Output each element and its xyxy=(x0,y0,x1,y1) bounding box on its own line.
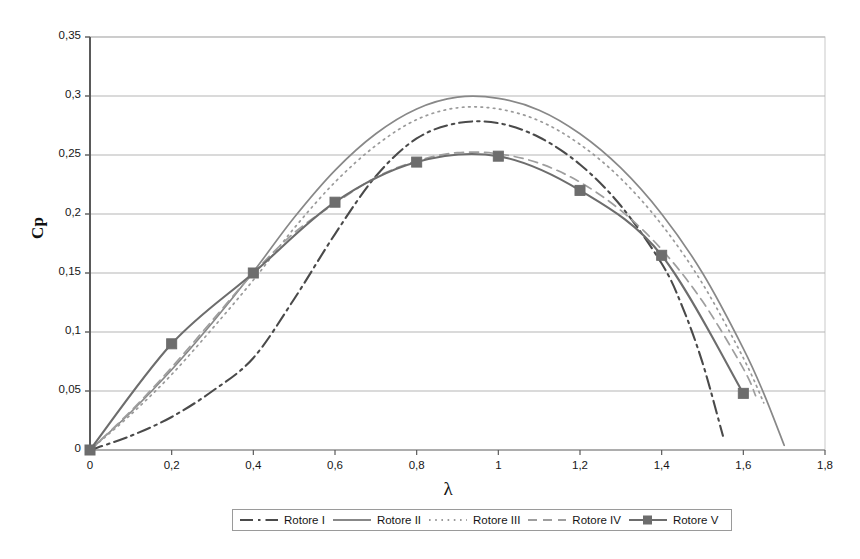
chart-figure: 00,050,10,150,20,250,30,3500,20,40,60,81… xyxy=(0,0,860,559)
legend-line-swatch xyxy=(527,514,567,526)
legend-item-3[interactable]: Rotore III xyxy=(428,510,527,530)
y-tick-label: 0,05 xyxy=(59,383,81,395)
series-marker-square xyxy=(248,268,258,278)
x-tick-label: 0,8 xyxy=(397,459,437,471)
series-marker-square xyxy=(738,388,748,398)
x-tick-label: 0,2 xyxy=(152,459,192,471)
legend-label: Rotore II xyxy=(377,514,421,526)
x-tick-label: 0 xyxy=(70,459,110,471)
x-tick-label: 1,8 xyxy=(805,459,845,471)
legend-line-swatch xyxy=(239,514,279,526)
series-marker-square xyxy=(85,445,95,455)
series-marker-square xyxy=(412,157,422,167)
plot-frame xyxy=(90,37,825,450)
legend-item-1[interactable]: Rotore I xyxy=(239,510,332,530)
x-tick-label: 0,4 xyxy=(233,459,273,471)
series-marker-square xyxy=(493,151,503,161)
x-tick-label: 0,6 xyxy=(315,459,355,471)
legend-label: Rotore IV xyxy=(572,514,621,526)
y-tick-label: 0,25 xyxy=(59,147,81,159)
y-tick-label: 0,2 xyxy=(65,206,81,218)
plot-canvas xyxy=(0,0,860,559)
x-tick-label: 1,4 xyxy=(642,459,682,471)
y-tick-label: 0,35 xyxy=(59,29,81,41)
series-marker-square xyxy=(167,339,177,349)
chart-legend: Rotore IRotore IIRotore IIIRotore IVRoto… xyxy=(232,509,732,531)
series-marker-square xyxy=(575,185,585,195)
y-axis-title: Cp xyxy=(28,214,48,242)
x-tick-label: 1,2 xyxy=(560,459,600,471)
series-line-1 xyxy=(90,121,723,450)
series-marker-square xyxy=(330,197,340,207)
legend-line-swatch xyxy=(332,514,372,526)
series-line-5 xyxy=(90,154,743,450)
x-tick-label: 1 xyxy=(478,459,518,471)
legend-label: Rotore V xyxy=(673,514,718,526)
legend-label: Rotore III xyxy=(473,514,520,526)
legend-line-swatch xyxy=(428,514,468,526)
x-axis-title: λ xyxy=(418,478,478,500)
legend-item-4[interactable]: Rotore IV xyxy=(527,510,628,530)
y-tick-label: 0,3 xyxy=(65,88,81,100)
legend-label: Rotore I xyxy=(284,514,325,526)
y-tick-label: 0,1 xyxy=(65,324,81,336)
y-tick-label: 0,15 xyxy=(59,265,81,277)
y-tick-label: 0 xyxy=(75,442,81,454)
series-marker-square xyxy=(657,250,667,260)
legend-item-2[interactable]: Rotore II xyxy=(332,510,428,530)
x-tick-label: 1,6 xyxy=(723,459,763,471)
legend-line-swatch xyxy=(628,514,668,526)
legend-item-5[interactable]: Rotore V xyxy=(628,510,725,530)
